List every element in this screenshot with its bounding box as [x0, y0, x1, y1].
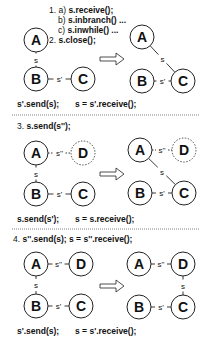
step-caption: c) s.inwhile() ...: [58, 25, 118, 35]
node-label: A: [137, 29, 147, 45]
node-C: C: [69, 294, 93, 318]
step-caption: 3. s.send(s'');: [17, 121, 71, 131]
node-label: C: [76, 298, 86, 314]
node-C: C: [172, 181, 196, 205]
node-A: A: [24, 252, 48, 276]
panel-3: 4. s''.send(s); s = s''.receive();s''ss'…: [13, 234, 195, 336]
node-A: A: [127, 252, 151, 276]
transition-arrow-icon: [100, 168, 124, 180]
node-label: C: [178, 73, 188, 89]
code-footer: s = s.receive();: [75, 214, 134, 224]
edge-B-C: s': [154, 77, 171, 86]
code-snippet: s.close();: [58, 35, 95, 45]
edge-D-C: s: [181, 276, 185, 295]
step-number: 1. a): [49, 5, 68, 15]
node-A: A: [24, 141, 48, 165]
node-label: A: [134, 256, 144, 272]
code-footer: s.send(s');: [17, 214, 59, 224]
edge-A-D: s'': [152, 146, 172, 155]
edge-label: s': [160, 77, 166, 86]
edge-A-C: s: [149, 158, 176, 184]
code-snippet: s''.send(s); s = s''.receive();: [22, 234, 132, 244]
code-footer: s'.send(s);: [17, 99, 59, 109]
node-label: B: [31, 71, 41, 87]
code-snippet: s.send(s'');: [26, 121, 70, 131]
node-label: D: [179, 142, 189, 158]
node-A: A: [130, 25, 154, 49]
edge-A-B: s: [34, 165, 38, 182]
edge-label: s: [34, 56, 38, 65]
node-label: D: [78, 145, 88, 161]
graph-after: s''ss'ADBC: [127, 252, 195, 319]
edge-B-C: s': [48, 190, 71, 199]
node-label: C: [178, 299, 188, 315]
node-label: B: [137, 73, 147, 89]
step-caption: b) s.inbranch() ...: [58, 15, 126, 25]
node-C: C: [71, 67, 95, 91]
transition-arrow-icon: [100, 280, 124, 292]
edge-label: s': [56, 302, 62, 311]
step-caption: 4. s''.send(s); s = s''.receive();: [13, 234, 133, 244]
edge-A-C: s: [150, 46, 175, 72]
step-caption: 1. a) s.receive();: [49, 5, 113, 15]
node-label: D: [76, 256, 86, 272]
node-label: C: [179, 185, 189, 201]
edge-label: s': [57, 75, 63, 84]
step-caption: 2. s.close();: [49, 35, 96, 45]
edge-label: s': [159, 189, 165, 198]
panel-2: 3. s.send(s'');s''ss'ADBCs''ss'ADBCs.sen…: [12, 121, 200, 229]
code-snippet: s.receive();: [68, 5, 113, 15]
node-C: C: [171, 69, 195, 93]
node-C: C: [171, 295, 195, 319]
node-A: A: [24, 28, 48, 52]
edge-B-C: s': [48, 302, 69, 311]
node-label: B: [134, 299, 144, 315]
node-label: A: [135, 142, 145, 158]
step-number: c): [58, 25, 67, 35]
node-B: B: [128, 181, 152, 205]
code-snippet: s.inwhile() ...: [67, 25, 118, 35]
graph-before: s''ss'ADBC: [24, 252, 93, 318]
step-number: 3.: [17, 121, 26, 131]
node-label: C: [78, 186, 88, 202]
code-footer: s = s'.receive();: [75, 326, 136, 336]
node-B: B: [24, 182, 48, 206]
graph-before: s''ss'ADBC: [24, 141, 95, 206]
edge-A-D: s'': [48, 149, 71, 158]
code-footer: s'.send(s);: [17, 326, 59, 336]
node-D: D: [172, 138, 196, 162]
edge-A-D: s'': [151, 260, 171, 269]
node-label: B: [135, 185, 145, 201]
transition-arrow-icon: [100, 53, 124, 65]
edge-label: s'': [56, 149, 64, 158]
node-label: A: [31, 256, 41, 272]
edge-label: s: [34, 281, 38, 290]
code-footer: s = s'.receive();: [75, 99, 136, 109]
node-B: B: [24, 294, 48, 318]
step-number: 4.: [13, 234, 22, 244]
edge-label: s: [161, 55, 165, 64]
code-snippet: s.inbranch() ...: [68, 15, 126, 25]
edge-B-C: s': [48, 75, 71, 84]
node-D: D: [71, 141, 95, 165]
graph-after: ss'ABC: [130, 25, 195, 93]
edge-A-B: s: [34, 276, 38, 294]
node-label: B: [31, 298, 41, 314]
edge-label: s: [160, 168, 164, 177]
edge-B-C: s': [152, 189, 172, 198]
node-D: D: [69, 252, 93, 276]
edge-label: s'': [157, 260, 165, 269]
edge-label: s: [34, 170, 38, 179]
session-diagram: 1. a) s.receive();b) s.inbranch() ...c) …: [0, 0, 212, 347]
node-label: A: [31, 145, 41, 161]
node-label: D: [178, 256, 188, 272]
node-B: B: [24, 67, 48, 91]
node-label: C: [78, 71, 88, 87]
edge-label: s'': [55, 260, 63, 269]
edge-label: s': [158, 303, 164, 312]
step-number: 2.: [49, 35, 58, 45]
node-C: C: [71, 182, 95, 206]
edge-A-B: s: [34, 52, 38, 67]
node-A: A: [128, 138, 152, 162]
step-number: b): [58, 15, 68, 25]
